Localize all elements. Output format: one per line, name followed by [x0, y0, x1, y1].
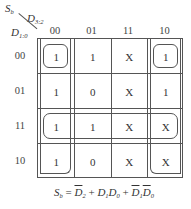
- col-header-00: 00: [37, 25, 73, 36]
- simplified-expression: Sb = D2 + D1D0 + D1D0: [54, 186, 154, 199]
- output-sub: b: [11, 8, 14, 15]
- row-variable-label: D1:0: [11, 27, 28, 41]
- cell-r00-c01: 1: [75, 39, 112, 74]
- cell-r00-c11: X: [111, 39, 148, 74]
- group-loop-row11: [43, 113, 178, 139]
- row-header-11: 11: [8, 120, 32, 131]
- formula-term3b: D: [143, 186, 151, 198]
- formula-term2b: D: [109, 186, 117, 198]
- col-header-01: 01: [74, 25, 110, 36]
- cell-r10-c11: X: [111, 144, 148, 179]
- cell-r01-c01: 0: [75, 74, 112, 109]
- row-var: D: [11, 26, 19, 38]
- cell-r01-c11: X: [111, 74, 148, 109]
- group-loop-corner-r00-c00: [43, 44, 68, 68]
- output-variable-label: Sb: [5, 3, 14, 17]
- group-loop-corner-r00-c10: [153, 44, 178, 68]
- col-header-11: 11: [110, 25, 146, 36]
- cell-r10-c01: 0: [75, 144, 112, 179]
- col-sub: 3:2: [35, 18, 44, 25]
- karnaugh-map-grid: 1 1 X 1 1 0 X 1 1 1 X X 1 0 X X: [37, 38, 183, 178]
- row-header-01: 01: [8, 85, 32, 96]
- col-header-10: 10: [147, 25, 183, 36]
- row-sub: 1:0: [19, 32, 28, 39]
- formula-plus: +: [86, 186, 98, 198]
- formula-term3b-sub: 0: [151, 192, 154, 199]
- formula-equals: =: [63, 186, 75, 198]
- row-header-10: 10: [8, 155, 32, 166]
- formula-plus: +: [120, 186, 132, 198]
- row-header-00: 00: [8, 50, 32, 61]
